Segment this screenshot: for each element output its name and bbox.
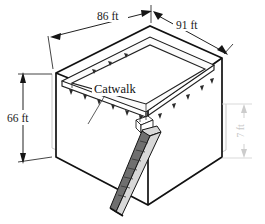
arrow-66-bottom <box>20 153 26 164</box>
ext-line-86-left <box>48 36 53 69</box>
dimension-label-86ft: 86 ft <box>97 10 119 22</box>
catwalk-label: Catwalk <box>94 82 136 96</box>
dimension-label-66ft: 66 ft <box>7 112 29 124</box>
arrow-91-right <box>217 45 228 55</box>
arrow-86-right <box>141 10 152 17</box>
arrow-7-top <box>241 104 247 113</box>
arrow-86-left <box>50 33 61 40</box>
diagram-canvas: 86 ft 91 ft 66 ft <box>0 0 265 224</box>
arrow-7-bottom <box>241 149 247 158</box>
dimension-label-7ft: 7 ft <box>235 124 246 138</box>
dimension-66ft: 66 ft <box>5 72 52 164</box>
dimension-label-91ft: 91 ft <box>176 19 198 31</box>
dimension-7ft: 7 ft <box>222 104 252 158</box>
technical-drawing-svg: 86 ft 91 ft 66 ft <box>0 0 265 224</box>
bin-face-front-right <box>148 104 222 205</box>
arrow-91-left <box>153 11 163 20</box>
